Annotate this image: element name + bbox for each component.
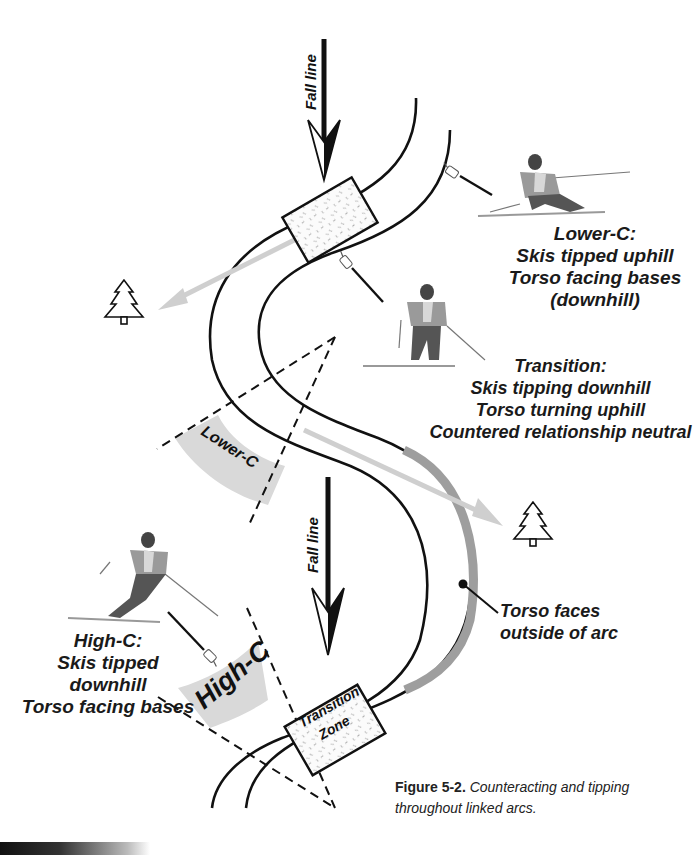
caption-label: Figure 5-2. (395, 779, 466, 795)
caption-text-line2: throughout linked arcs. (395, 800, 537, 816)
transition-note-line1: Skis tipping downhill (428, 377, 693, 399)
lower-c-note-line1: Skis tipped uphill (500, 245, 690, 267)
lower-c-note-line3: (downhill) (500, 289, 690, 311)
pointer-lower-c (440, 162, 492, 195)
page-gradient-bar (0, 842, 150, 855)
high-c-note-line2: Torso facing bases (18, 696, 198, 718)
fall-line-label-top: Fall line (302, 54, 319, 110)
tree-icon (514, 502, 552, 546)
transition-note-line3: Countered relationship neutral (428, 421, 693, 443)
pointer-transition (335, 250, 383, 302)
figure-caption: Figure 5-2. Counteracting and tipping th… (395, 777, 665, 819)
skier-illustration-high-c (68, 532, 218, 622)
transition-note: Transition: Skis tipping downhill Torso … (428, 355, 693, 443)
high-c-note: High-C: Skis tipped downhill Torso facin… (18, 630, 198, 718)
lower-c-note: Lower-C: Skis tipped uphill Torso facing… (500, 223, 690, 311)
skier-illustration-transition (363, 284, 485, 366)
high-c-note-line1: Skis tipped downhill (18, 652, 198, 696)
transition-note-line2: Torso turning uphill (428, 399, 693, 421)
fall-line-label-mid: Fall line (304, 517, 321, 573)
transition-note-title: Transition: (428, 355, 693, 377)
caption-text-line1: Counteracting and tipping (470, 779, 630, 795)
torso-note-line1: Torso faces (500, 600, 630, 622)
high-c-note-title: High-C: (18, 630, 198, 652)
direction-arrow-lower (304, 430, 503, 526)
pointing-hand-icon (335, 250, 353, 269)
lower-c-note-title: Lower-C: (500, 223, 690, 245)
tree-icon (105, 280, 143, 324)
torso-note: Torso faces outside of arc (500, 600, 630, 644)
pointing-hand-icon (203, 649, 221, 667)
skier-illustration-lower-c (478, 154, 630, 216)
torso-note-line2: outside of arc (500, 622, 630, 644)
lower-c-note-line2: Torso facing bases (500, 267, 690, 289)
lower-c-band (175, 415, 285, 505)
